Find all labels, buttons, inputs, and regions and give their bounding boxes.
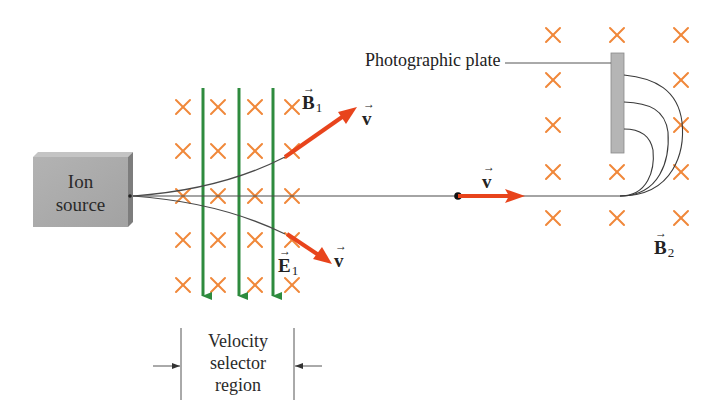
ion-beam [133, 157, 620, 234]
b2-subscript: 2 [668, 245, 675, 260]
photographic-plate [505, 53, 624, 153]
vector-arrow-icon: → [363, 97, 375, 112]
e1-subscript: 1 [292, 263, 299, 278]
vector-arrow-icon: → [655, 226, 667, 241]
velocity-selector-line3: region [183, 374, 293, 396]
vector-arrow-icon: → [483, 160, 495, 175]
b2-trajectories [620, 75, 682, 196]
v-lower-label: →v [334, 250, 344, 272]
vector-arrow-icon: → [279, 244, 291, 259]
e1-vector-label: →E1 [278, 255, 298, 279]
vector-arrow-icon: → [335, 239, 347, 254]
b1-vector-label: →B1 [302, 92, 322, 116]
velocity-selector-line2: selector [183, 352, 293, 374]
vector-arrow-icon: → [303, 81, 315, 96]
velocity-selector-label: Velocity selector region [183, 330, 293, 396]
v-middle-label: →v [482, 171, 492, 193]
velocity-selector-line1: Velocity [183, 330, 293, 352]
b2-vector-label: →B2 [654, 237, 674, 261]
ion-source-label-line1: Ion [33, 170, 128, 193]
v-upper-label: →v [362, 108, 372, 130]
ion-source-label: Ion source [33, 170, 128, 216]
b1-subscript: 1 [316, 100, 323, 115]
photographic-plate-label: Photographic plate [365, 50, 500, 71]
ion-source-label-line2: source [33, 193, 128, 216]
